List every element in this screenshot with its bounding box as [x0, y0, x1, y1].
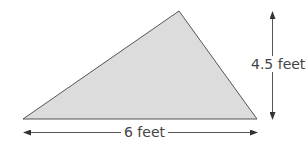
triangle-diagram: 4.5 feet 6 feet: [0, 0, 308, 147]
triangle-shape: [23, 11, 257, 119]
base-label: 6 feet: [121, 124, 168, 140]
height-label: 4.5 feet: [250, 56, 306, 72]
